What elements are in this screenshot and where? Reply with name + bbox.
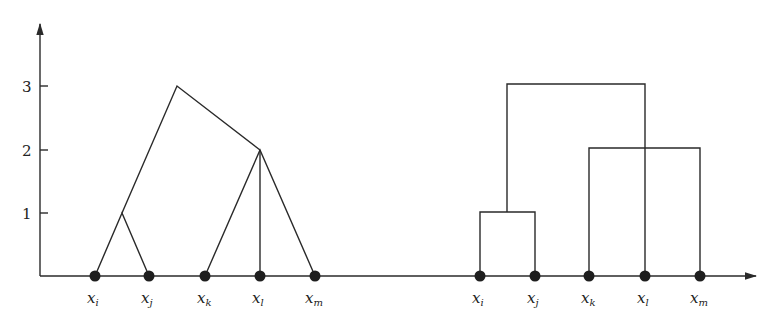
point-xj: [530, 271, 541, 282]
left-dendrogram: xi xj xk xl xm: [87, 86, 323, 308]
point-xk: [200, 271, 211, 282]
label-xl: xl: [637, 289, 649, 308]
point-xm: [695, 271, 706, 282]
label-xm: xm: [690, 289, 708, 308]
label-xm: xm: [305, 289, 323, 308]
label-xk: xk: [581, 289, 596, 308]
point-xj: [144, 271, 155, 282]
label-xj: xj: [527, 289, 539, 308]
merge-root-height-3: [122, 86, 260, 213]
dendrogram-figure: 1 2 3 xi xj xk xl xm xi xj xk xl xm: [0, 0, 776, 318]
label-xj: xj: [141, 289, 153, 308]
point-xi: [475, 271, 486, 282]
y-tick-label-1: 1: [22, 205, 32, 223]
bracket-ij-height-1: [480, 212, 535, 276]
point-xl: [255, 271, 266, 282]
point-xi: [90, 271, 101, 282]
label-xi: xi: [87, 289, 99, 308]
point-xm: [310, 271, 321, 282]
point-xk: [584, 271, 595, 282]
y-tick-label-2: 2: [22, 142, 32, 160]
bracket-root-height-3: [507, 84, 645, 276]
label-xk: xk: [197, 289, 212, 308]
merge-ij-height-1: [95, 213, 149, 276]
label-xl: xl: [252, 289, 264, 308]
point-xl: [640, 271, 651, 282]
y-tick-label-3: 3: [22, 78, 32, 96]
right-dendrogram: xi xj xk xl xm: [472, 84, 708, 308]
label-xi: xi: [472, 289, 484, 308]
